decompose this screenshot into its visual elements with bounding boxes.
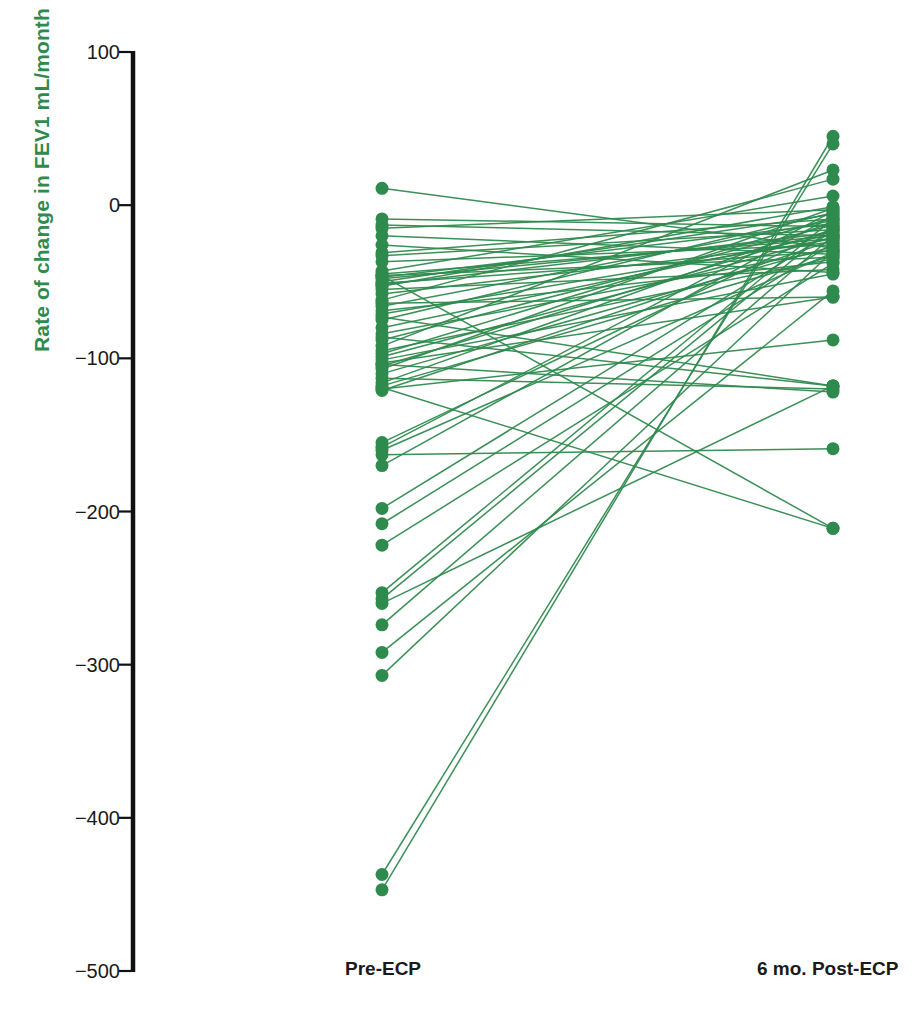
pair-line-53 (382, 386, 833, 603)
pair-line-59 (382, 387, 833, 528)
post-dot-62 (827, 379, 840, 392)
pre-dot-58 (376, 883, 389, 896)
pair-line-50 (382, 263, 833, 545)
post-dot-60 (827, 522, 840, 535)
y-tick-label-6: −500 (30, 961, 120, 981)
post-dot-63 (827, 291, 840, 304)
pre-dot-57 (376, 868, 389, 881)
pair-lines-group (382, 136, 833, 890)
pair-line-54 (382, 236, 833, 625)
y-tick-label-3: −200 (30, 502, 120, 522)
post-dot-41 (827, 333, 840, 346)
pre-dot-59 (376, 381, 389, 394)
y-tick-label-5: −400 (30, 808, 120, 828)
pre-dot-48 (376, 502, 389, 515)
post-dot-29 (827, 163, 840, 176)
pair-line-60 (382, 276, 833, 529)
pre-dot-53 (376, 597, 389, 610)
pre-dot-0 (376, 182, 389, 195)
pre-dot-56 (376, 669, 389, 682)
y-tick-label-0: 100 (30, 42, 120, 62)
y-tick-label-1: 0 (30, 195, 120, 215)
pair-line-46 (382, 449, 833, 455)
y-tick-label-2: −100 (30, 348, 120, 368)
x-axis-label-pre-ecp: Pre-ECP (345, 958, 421, 980)
post-dot-54 (827, 229, 840, 242)
slopegraph-plot (0, 0, 914, 1013)
pre-dot-60 (376, 269, 389, 282)
pre-dot-63 (376, 297, 389, 310)
pair-line-25 (382, 213, 833, 320)
post-dot-56 (827, 245, 840, 258)
pre-dot-49 (376, 517, 389, 530)
y-axis-ticks-group (119, 52, 131, 971)
chart-figure: Rate of change in FEV1 mL/month 1000−100… (0, 0, 914, 1013)
y-tick-label-4: −300 (30, 655, 120, 675)
pre-dot-55 (376, 646, 389, 659)
x-axis-label-post-ecp: 6 mo. Post-ECP (757, 958, 898, 980)
pre-dot-50 (376, 539, 389, 552)
pre-dot-62 (376, 330, 389, 343)
post-dot-46 (827, 442, 840, 455)
pre-dot-47 (376, 459, 389, 472)
pair-line-29 (382, 170, 833, 346)
post-dot-58 (827, 130, 840, 143)
pair-line-37 (382, 247, 833, 374)
pre-dot-54 (376, 618, 389, 631)
pre-dot-61 (376, 358, 389, 371)
post-dot-50 (827, 257, 840, 270)
